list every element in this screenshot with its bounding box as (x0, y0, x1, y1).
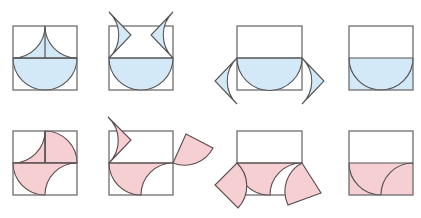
bottom-figure-4 (349, 131, 413, 195)
bottom-figure-1 (13, 131, 77, 195)
top-figure-2 (109, 12, 173, 90)
top-figure-1 (13, 26, 77, 90)
top-figure-3 (215, 26, 324, 104)
top-figure-4 (349, 26, 413, 90)
dissection-diagram (0, 0, 421, 218)
bottom-figure-2 (108, 117, 213, 195)
bottom-figure-3 (215, 131, 321, 208)
